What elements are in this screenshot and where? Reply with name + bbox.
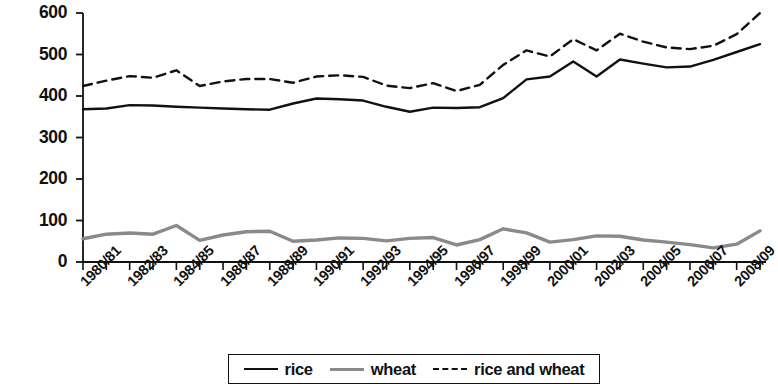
y-tick-label: 300 (21, 127, 67, 148)
series-line-wheat (83, 225, 760, 247)
legend-swatch-icon (330, 363, 364, 375)
legend-item: rice (244, 360, 313, 379)
legend-label: wheat (371, 360, 416, 379)
legend-item: wheat (330, 360, 416, 379)
legend-label: rice (285, 360, 313, 379)
y-tick-label: 0 (21, 251, 67, 272)
axes (76, 13, 766, 270)
series-line-rice (83, 44, 760, 112)
legend-swatch-icon (244, 363, 278, 375)
data-series (83, 13, 760, 248)
y-tick-label: 400 (21, 85, 67, 106)
y-tick-label: 100 (21, 210, 67, 231)
legend-swatch-icon (433, 363, 467, 375)
y-tick-label: 600 (21, 2, 67, 23)
y-tick-label: 200 (21, 168, 67, 189)
chart-legend: ricewheatrice and wheat (228, 354, 600, 384)
series-line-rice-and-wheat (83, 13, 760, 91)
y-tick-label: 500 (21, 44, 67, 65)
legend-label: rice and wheat (474, 360, 584, 379)
legend-item: rice and wheat (433, 360, 584, 379)
